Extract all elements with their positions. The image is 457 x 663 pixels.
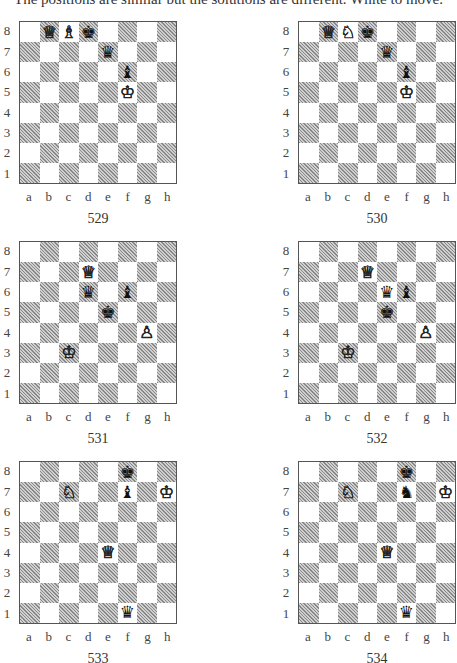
- square-c2: [59, 143, 79, 163]
- square-a3: [299, 123, 319, 143]
- square-b3: [40, 563, 60, 583]
- rank-label: 1: [0, 604, 14, 624]
- square-h4: [157, 323, 177, 343]
- square-g2: [416, 583, 436, 603]
- square-c4: [338, 323, 358, 343]
- file-label: a: [19, 629, 39, 645]
- rank-label: 6: [279, 502, 293, 522]
- rank-label: 7: [279, 481, 293, 501]
- square-c2: [59, 363, 79, 383]
- white-king-icon: ♔: [340, 344, 355, 361]
- chess-board: ♕♘♚♛♝♔: [298, 21, 456, 184]
- square-g8: [137, 462, 157, 482]
- rank-labels: 87654321: [279, 21, 293, 184]
- square-e6: [98, 502, 118, 522]
- black-king-icon: ♚: [81, 24, 96, 41]
- square-h1: [157, 383, 177, 403]
- square-h3: [436, 343, 456, 363]
- square-g7: [137, 262, 157, 282]
- square-g1: [137, 603, 157, 623]
- square-h3: [157, 343, 177, 363]
- white-king-icon: ♔: [61, 344, 76, 361]
- rank-label: 1: [0, 164, 14, 184]
- square-g4: [137, 543, 157, 563]
- square-g3: [416, 563, 436, 583]
- square-b5: [319, 82, 339, 102]
- black-queen-icon: ♛: [81, 284, 96, 301]
- file-labels: abcdefgh: [298, 409, 456, 425]
- square-h3: [157, 563, 177, 583]
- square-h1: [157, 603, 177, 623]
- square-a7: [20, 262, 40, 282]
- square-b1: [319, 383, 339, 403]
- square-h1: [436, 603, 456, 623]
- square-g4: [416, 543, 436, 563]
- square-d6: ♛: [79, 282, 99, 302]
- square-g5: [416, 522, 436, 542]
- chess-board: ♚♘♞♔♕♛: [298, 461, 456, 624]
- square-c3: [59, 123, 79, 143]
- square-d6: [79, 502, 99, 522]
- black-bishop-icon: ♝: [120, 484, 135, 501]
- file-label: f: [118, 409, 138, 425]
- square-g6: [137, 282, 157, 302]
- square-h1: [436, 163, 456, 183]
- square-a3: [20, 343, 40, 363]
- square-h8: [157, 462, 177, 482]
- square-f8: [397, 242, 417, 262]
- square-c1: [338, 163, 358, 183]
- square-g3: [137, 563, 157, 583]
- square-h8: [436, 242, 456, 262]
- chess-board: ♕♛♝♚♙♔: [19, 241, 177, 404]
- square-d4: [79, 323, 99, 343]
- chess-diagram-531: 87654321♕♛♝♚♙♔abcdefgh531: [0, 241, 230, 461]
- square-g7: [416, 262, 436, 282]
- square-a6: [299, 502, 319, 522]
- square-b2: [319, 363, 339, 383]
- file-label: h: [436, 629, 456, 645]
- square-f1: [118, 383, 138, 403]
- square-h4: [436, 543, 456, 563]
- diagram-number: 531: [19, 431, 177, 447]
- square-b8: [319, 462, 339, 482]
- diagram-number: 532: [298, 431, 456, 447]
- square-d5: [79, 302, 99, 322]
- square-g1: [137, 383, 157, 403]
- square-h6: [157, 282, 177, 302]
- white-pawn-icon: ♙: [139, 324, 154, 341]
- square-a4: [20, 543, 40, 563]
- square-a6: [299, 282, 319, 302]
- white-king-icon: ♔: [159, 484, 174, 501]
- square-h5: [157, 522, 177, 542]
- square-b7: [319, 482, 339, 502]
- file-label: g: [138, 189, 158, 205]
- black-king-icon: ♚: [379, 304, 394, 321]
- square-c4: [59, 323, 79, 343]
- square-a2: [20, 143, 40, 163]
- square-f6: [397, 502, 417, 522]
- rank-labels: 87654321: [0, 461, 14, 624]
- square-f4: [118, 323, 138, 343]
- square-d4: [79, 543, 99, 563]
- square-d4: [358, 323, 378, 343]
- square-b1: [40, 603, 60, 623]
- square-e8: [98, 462, 118, 482]
- square-d5: [358, 302, 378, 322]
- square-g5: [416, 82, 436, 102]
- rank-label: 6: [0, 502, 14, 522]
- file-label: h: [436, 189, 456, 205]
- square-b5: [40, 522, 60, 542]
- square-h2: [157, 363, 177, 383]
- square-c2: [338, 583, 358, 603]
- white-queen-icon: ♕: [100, 544, 115, 561]
- square-e1: [377, 383, 397, 403]
- square-f8: [397, 22, 417, 42]
- square-b8: ♕: [319, 22, 339, 42]
- square-a5: [299, 302, 319, 322]
- square-b6: [40, 282, 60, 302]
- square-e8: [377, 22, 397, 42]
- square-b1: [40, 163, 60, 183]
- square-b7: [40, 42, 60, 62]
- square-c2: [338, 363, 358, 383]
- black-bishop-icon: ♝: [120, 64, 135, 81]
